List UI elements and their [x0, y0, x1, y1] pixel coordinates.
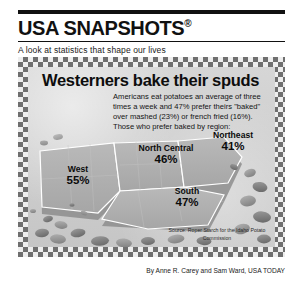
- region-value-south: 47%: [156, 196, 218, 209]
- region-value-northeast: 41%: [200, 140, 266, 153]
- masthead-mid-rule: [18, 41, 285, 42]
- byline: By Anne R. Carey and Sam Ward, USA TODAY: [18, 267, 287, 274]
- masthead-tagline: A look at statistics that shape our live…: [18, 45, 285, 55]
- registered-mark: ®: [184, 18, 191, 29]
- graphic-headline: Westerners bake their spuds: [42, 71, 259, 90]
- region-name-south: South: [156, 187, 218, 196]
- region-label-north-central: North Central 46%: [126, 144, 206, 166]
- panel-inner: Westerners bake their spuds Americans ea…: [28, 67, 275, 247]
- masthead: USA SNAPSHOTS® A look at statistics that…: [18, 10, 285, 55]
- potato-cluster-top: [40, 133, 63, 145]
- region-label-west: West 55%: [52, 165, 104, 187]
- region-label-northeast: Northeast 41%: [200, 131, 266, 153]
- page-title: USA SNAPSHOTS®: [18, 18, 285, 38]
- region-name-west: West: [52, 165, 104, 174]
- region-value-west: 55%: [52, 174, 104, 187]
- region-name-north-central: North Central: [126, 144, 206, 153]
- source-credit: Source: Roper Starch for the Idaho Potat…: [168, 227, 266, 242]
- region-label-south: South 47%: [156, 187, 218, 209]
- masthead-top-rule: [18, 10, 285, 14]
- graphic-panel: Westerners bake their spuds Americans ea…: [18, 57, 285, 257]
- brand-text: USA SNAPSHOTS: [18, 17, 184, 39]
- region-name-northeast: Northeast: [200, 131, 266, 140]
- graphic-deck: Americans eat potatoes an average of thr…: [113, 92, 268, 132]
- usa-snapshots-infographic: USA SNAPSHOTS® A look at statistics that…: [0, 0, 303, 286]
- region-value-north-central: 46%: [126, 153, 206, 166]
